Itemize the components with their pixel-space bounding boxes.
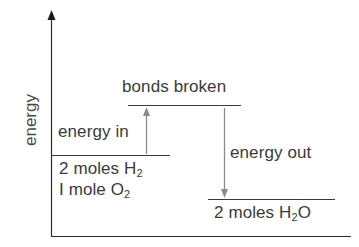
bonds-broken-label: bonds broken	[122, 78, 226, 95]
energy-out-arrow	[221, 108, 228, 198]
arrow-down-icon	[221, 189, 228, 198]
energy-in-label: energy in	[58, 123, 129, 140]
energy-level-diagram: energy bonds broken energy in 2 moles H2…	[0, 0, 359, 247]
product-water-suffix: O	[298, 203, 311, 222]
arrow-up-icon	[143, 107, 150, 116]
y-axis	[48, 10, 56, 237]
reactant-oxygen-subscript: 2	[124, 188, 130, 200]
reactant-oxygen-text: I mole O	[59, 180, 124, 199]
reactant-hydrogen-subscript: 2	[136, 167, 142, 179]
product-water-text: 2 moles H	[214, 203, 291, 222]
energy-out-label: energy out	[230, 144, 311, 161]
reactant-hydrogen-text: 2 moles H	[59, 159, 136, 178]
y-axis-arrowhead-icon	[48, 10, 56, 20]
y-axis-label: energy	[21, 94, 41, 146]
product-water-label: 2 moles H2O	[214, 204, 311, 221]
reactant-hydrogen-label: 2 moles H2	[59, 160, 143, 177]
reactant-oxygen-label: I mole O2	[59, 181, 130, 198]
energy-in-arrow	[143, 107, 150, 154]
